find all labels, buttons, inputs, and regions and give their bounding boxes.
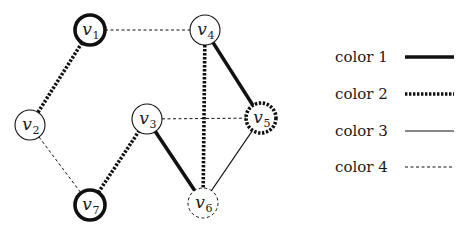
node-label: v [139, 108, 149, 128]
legend-label: color 4 [335, 158, 388, 176]
node-label: v [82, 194, 92, 214]
graph-diagram: v1v2v3v4v5v6v7 color 1color 2color 3colo… [0, 0, 466, 238]
nodes-group: v1v2v3v4v5v6v7 [15, 15, 276, 220]
legend-label: color 1 [335, 48, 388, 66]
node-subscript: 6 [206, 202, 213, 215]
node-subscript: 7 [93, 204, 100, 217]
legend-label: color 3 [335, 122, 388, 140]
edge-v1-v2 [38, 43, 82, 113]
edge-v2-v7 [39, 137, 81, 193]
legend-item-1: color 1 [335, 48, 454, 66]
legend-label: color 2 [335, 85, 388, 103]
node-label: v [197, 19, 207, 39]
node-v4: v4 [190, 15, 220, 45]
node-v1: v1 [75, 15, 105, 45]
node-label: v [22, 114, 32, 134]
node-v7: v7 [75, 190, 105, 220]
legend-item-2: color 2 [335, 85, 454, 103]
node-subscript: 2 [33, 124, 40, 137]
edge-v5-v6 [211, 130, 252, 190]
node-subscript: 3 [150, 118, 157, 131]
edge-v3-v6 [155, 131, 194, 190]
node-v6: v6 [188, 188, 218, 218]
node-subscript: 4 [208, 29, 215, 42]
node-v5: v5 [246, 103, 276, 133]
edge-v7-v3 [98, 132, 138, 193]
legend-item-3: color 3 [335, 122, 454, 140]
edge-v4-v6 [203, 45, 205, 188]
node-subscript: 5 [264, 117, 271, 130]
legend: color 1color 2color 3color 4 [335, 48, 454, 176]
node-label: v [253, 107, 263, 127]
node-subscript: 1 [93, 29, 100, 42]
node-v2: v2 [15, 110, 45, 140]
legend-item-4: color 4 [335, 158, 454, 176]
node-label: v [82, 19, 92, 39]
node-label: v [195, 192, 205, 212]
edge-v4-v5 [213, 43, 253, 106]
node-v3: v3 [132, 104, 162, 134]
